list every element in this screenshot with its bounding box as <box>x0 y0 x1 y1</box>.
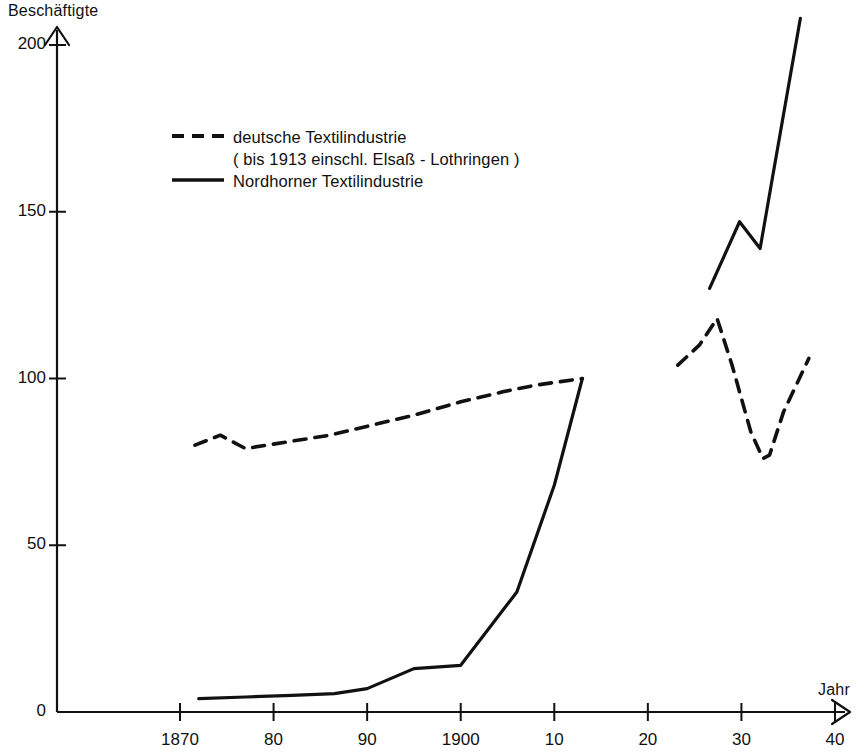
x-axis-tick-label: 1900 <box>442 730 480 750</box>
series-line-deutsche-textilindustrie-segment-0 <box>195 379 582 449</box>
x-axis-tick-label: 80 <box>264 730 283 750</box>
y-axis-tick-label: 150 <box>0 201 46 221</box>
chart-canvas <box>0 0 866 756</box>
y-axis-tick-label: 100 <box>0 368 46 388</box>
legend-entry-sublabel-elsass-lothringen: ( bis 1913 einschl. Elsaß - Lothringen ) <box>233 150 519 169</box>
legend-swatches <box>172 136 224 180</box>
y-axis-tick-label: 200 <box>0 34 46 54</box>
series-line-deutsche-textilindustrie-segment-1 <box>678 318 809 458</box>
y-axis-tick-label: 50 <box>0 534 46 554</box>
x-axis-tick-label: 20 <box>638 730 657 750</box>
series-line-nordhorner-textilindustrie-segment-0 <box>199 379 583 699</box>
x-axis-tick-label: 10 <box>545 730 564 750</box>
y-axis-title: Beschäftigte <box>8 2 98 20</box>
x-axis-tick-label: 1870 <box>161 730 199 750</box>
legend-entry-label-nordhorner-textilindustrie: Nordhorner Textilindustrie <box>233 172 423 191</box>
chart-figure: Beschäftigte Jahr deutsche Textilindustr… <box>0 0 866 756</box>
x-axis-tick-label: 90 <box>358 730 377 750</box>
legend-entry-label-deutsche-textilindustrie: deutsche Textilindustrie <box>233 128 407 147</box>
series-line-nordhorner-textilindustrie-segment-1 <box>710 18 801 288</box>
x-axis-title: Jahr <box>818 681 850 699</box>
x-axis-tick-label: 30 <box>732 730 751 750</box>
axes-group <box>45 27 850 724</box>
data-series-group <box>195 18 809 698</box>
x-axis-tick-label: 40 <box>826 730 845 750</box>
y-axis-tick-label: 0 <box>0 701 46 721</box>
